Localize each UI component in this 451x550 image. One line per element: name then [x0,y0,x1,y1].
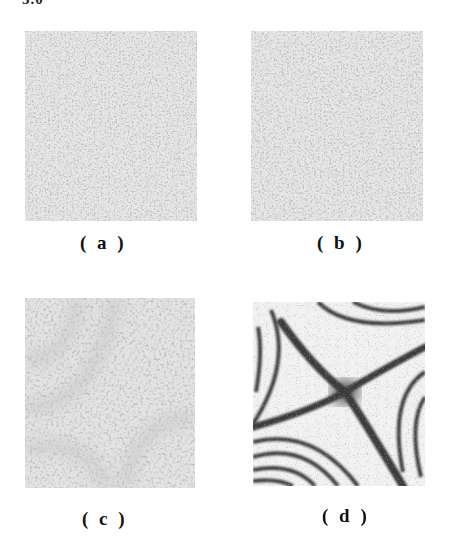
panel-d-image [253,302,425,486]
panel-a-image [25,31,197,221]
panel-c-image [25,298,195,488]
panel-b-label: ( b ) [317,232,365,254]
panel-a-label: ( a ) [80,232,127,254]
panel-d-label: ( d ) [322,505,370,527]
panel-c-label: ( c ) [82,508,128,530]
top-cropped-text: 5.0 [22,0,44,8]
panel-b-image [251,31,423,221]
